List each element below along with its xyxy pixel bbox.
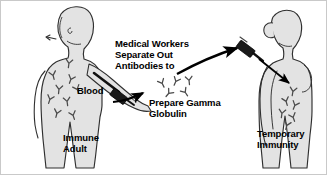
center-top-caption: Medical Workers Separate Out Antibodies …	[115, 38, 189, 71]
temporary-immunity-label: Temporary Immunity	[257, 128, 305, 150]
immunity-diagram: Medical Workers Separate Out Antibodies …	[0, 0, 327, 175]
injection-syringe	[236, 37, 263, 61]
gamma-globulin-antibodies	[158, 76, 193, 98]
center-bottom-caption: Prepare Gamma Globulin	[149, 97, 221, 119]
temporary-immunity-ponytail	[264, 23, 274, 38]
immune-adult-label: Immune Adult	[63, 132, 99, 154]
blood-label: Blood	[77, 85, 103, 96]
